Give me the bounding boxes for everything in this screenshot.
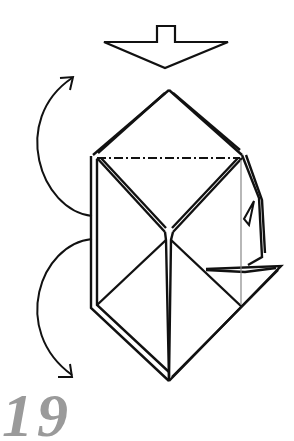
fold-arrow-down-icon (37, 239, 92, 377)
push-arrow-icon (104, 26, 228, 68)
fold-arrow-up-icon (37, 77, 92, 216)
step-number: 19 (2, 384, 72, 441)
flap-detail (244, 201, 254, 225)
model-outline (91, 90, 281, 381)
